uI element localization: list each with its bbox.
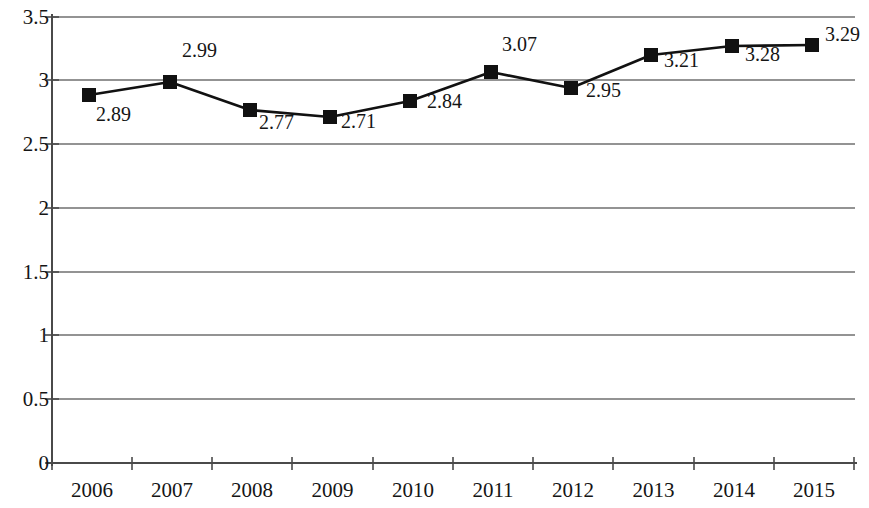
chart-canvas [0,0,869,508]
data-point-marker[interactable] [564,81,578,95]
x-tick-label: 2006 [52,480,132,501]
y-tick-label: 0 [4,453,49,474]
data-point-marker[interactable] [484,65,498,79]
y-tick-label: 3.5 [4,7,49,28]
x-tick-label: 2014 [694,480,774,501]
data-point-marker[interactable] [403,94,417,108]
data-point-marker[interactable] [163,75,177,89]
data-point-label: 2.95 [586,80,621,100]
y-tick-label: 0.5 [4,389,49,410]
y-tick-label: 2 [4,198,49,219]
y-tick-label: 3 [4,70,49,91]
data-point-label: 2.89 [96,104,131,124]
data-point-label: 3.07 [502,34,537,54]
data-point-marker[interactable] [725,39,739,53]
x-tick-label: 2008 [212,480,292,501]
line-chart: 3.5 3 2.5 2 1.5 1 0.5 0 2006 2007 2008 2… [0,0,869,508]
data-point-label: 3.29 [825,24,860,44]
data-point-label: 2.77 [259,112,294,132]
x-tick-label: 2007 [132,480,212,501]
data-point-label: 2.84 [427,91,462,111]
data-point-marker[interactable] [644,48,658,62]
x-tick-label: 2011 [453,480,533,501]
data-point-marker[interactable] [243,103,257,117]
data-point-marker[interactable] [805,38,819,52]
data-point-marker[interactable] [323,110,337,124]
x-tick-label: 2012 [533,480,613,501]
data-point-label: 2.71 [341,111,376,131]
gridlines-horizontal [52,17,855,399]
y-tick-label: 2.5 [4,134,49,155]
x-tick-label: 2009 [292,480,373,501]
y-tick-label: 1.5 [4,262,49,283]
x-tick-label: 2010 [373,480,453,501]
x-tick-label: 2015 [774,480,854,501]
data-point-label: 2.99 [182,40,217,60]
x-tick-label: 2013 [613,480,694,501]
data-point-label: 3.21 [664,50,699,70]
data-point-label: 3.28 [745,44,780,64]
y-tick-label: 1 [4,325,49,346]
data-point-marker[interactable] [82,88,96,102]
